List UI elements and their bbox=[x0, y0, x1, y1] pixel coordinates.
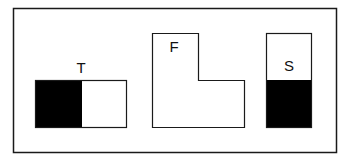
top-view-dark-half bbox=[35, 80, 82, 128]
top-view-light-half bbox=[82, 80, 127, 128]
orthographic-diagram: T F S bbox=[0, 0, 351, 161]
front-view-label: F bbox=[169, 38, 178, 55]
side-view-label: S bbox=[284, 57, 294, 74]
top-view: T bbox=[35, 59, 127, 128]
front-view: F bbox=[153, 34, 245, 128]
front-view-outline bbox=[153, 34, 245, 128]
side-view: S bbox=[266, 34, 312, 129]
top-view-label: T bbox=[76, 59, 85, 76]
side-view-dark-half bbox=[266, 80, 312, 128]
